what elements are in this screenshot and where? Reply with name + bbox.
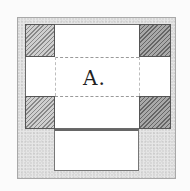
fold-line-left xyxy=(55,57,56,96)
fold-line-bottom xyxy=(55,96,139,97)
fold-line-right xyxy=(139,57,140,96)
hatched-corner-top-right xyxy=(139,24,171,57)
diagram-label: A. xyxy=(83,66,106,90)
bottom-flap xyxy=(54,129,139,171)
hatched-corner-bottom-left xyxy=(25,96,55,129)
hatched-corner-top-left xyxy=(25,24,55,57)
hatched-corner-bottom-right xyxy=(139,96,171,129)
fold-line-top xyxy=(55,57,139,58)
